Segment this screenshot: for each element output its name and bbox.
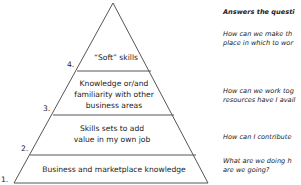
question-1: What are we doing h are we going? (223, 157, 292, 175)
side-panel-title: Answers the questi (223, 8, 295, 17)
question-3-line-1: How can we work tog (223, 87, 295, 96)
question-3: How can we work tog resources have I ava… (223, 87, 295, 105)
layer-3-number: 3. (43, 104, 50, 113)
layer-1-label: Business and marketplace knowledge (42, 165, 186, 174)
layer-4-number: 4. (67, 60, 74, 69)
layer-2-number: 2. (21, 144, 28, 153)
question-1-line-1: What are we doing h (223, 157, 292, 166)
question-4-line-2: place in which to wor (223, 39, 293, 48)
layer-4-label: “Soft” skills (94, 53, 138, 62)
layer-2-label-line-2: value in my own job (74, 135, 151, 144)
question-1-line-2: are we going? (223, 166, 292, 175)
layer-3-label-line-2: familiarity with other (74, 90, 154, 99)
question-3-line-2: resources have I avail (223, 96, 295, 105)
question-4: How can we make th place in which to wor (223, 30, 293, 48)
layer-3-label-line-3: business areas (86, 101, 142, 110)
question-2-line-1: How can I contribute (223, 133, 291, 142)
layer-1-number: 1. (1, 175, 8, 184)
layer-3-label-line-1: Knowledge or/and (80, 79, 149, 88)
question-4-line-1: How can we make th (223, 30, 293, 39)
question-2: How can I contribute (223, 133, 291, 142)
layer-2-label-line-1: Skills sets to add (80, 124, 144, 133)
